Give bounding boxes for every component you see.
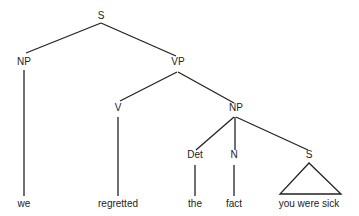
node-s: S	[98, 10, 105, 22]
node-n: N	[230, 149, 237, 161]
node-det: Det	[187, 149, 203, 161]
leaf-the: the	[188, 198, 202, 210]
node-np-object: NP	[229, 102, 243, 114]
leaf-you-were-sick: you were sick	[279, 198, 340, 210]
node-np: NP	[17, 56, 31, 68]
tree-edges	[0, 0, 359, 216]
node-s-embedded: S	[306, 149, 313, 161]
leaf-fact: fact	[226, 198, 242, 210]
node-v: V	[115, 102, 122, 114]
leaf-regretted: regretted	[98, 198, 138, 210]
node-vp: VP	[171, 56, 184, 68]
leaf-we: we	[18, 198, 31, 210]
syntax-tree: S NP VP V NP Det N S we regretted the fa…	[0, 0, 359, 216]
